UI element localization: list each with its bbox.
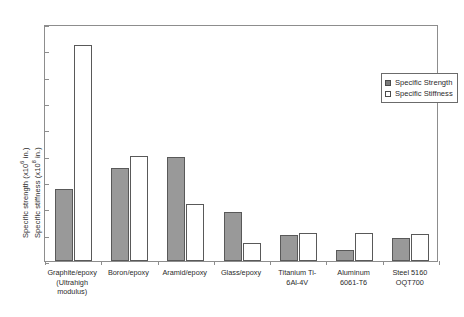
bar-stiffness: [299, 233, 317, 261]
x-axis-tick-mark: [439, 261, 440, 265]
bar-strength: [280, 235, 298, 261]
x-axis-label: Aluminum6061-T6: [325, 268, 381, 287]
x-axis-label: Graphite/epoxy(Ultrahighmodulus): [44, 268, 100, 297]
x-axis-tick-mark: [270, 261, 271, 265]
y-axis-tick-mark: [45, 52, 49, 53]
y-axis-tick-mark: [45, 131, 49, 132]
legend-item: Specific Strength: [385, 77, 453, 88]
y-axis-tick-mark: [45, 184, 49, 185]
y-axis-title-stiffness-exponent: 8: [31, 160, 37, 163]
x-axis-label-line: Titanium Ti-: [269, 268, 325, 278]
y-axis-tick-mark: [45, 26, 49, 27]
chart-legend: Specific StrengthSpecific Stiffness: [381, 73, 458, 103]
x-axis-label-line: Glass/epoxy: [213, 268, 269, 278]
x-axis-label-line: 6Al-4V: [269, 278, 325, 288]
y-axis-tick-mark: [45, 237, 49, 238]
y-axis-tick-mark: [45, 210, 49, 211]
bar-stiffness: [74, 45, 92, 261]
plot-area: 0123456789 Specific StrengthSpecific Sti…: [44, 25, 438, 262]
bar-stiffness: [243, 243, 261, 261]
x-axis-label: Titanium Ti-6Al-4V: [269, 268, 325, 287]
y-axis-title-stiffness-text: Specific stiffness (x10: [33, 163, 42, 238]
x-axis-tick-mark: [383, 261, 384, 265]
x-axis-label: Boron/epoxy: [100, 268, 156, 278]
y-axis-title-strength-text: Specific strength (x10: [21, 164, 30, 238]
x-axis-label: Aramid/epoxy: [157, 268, 213, 278]
bar-strength: [392, 238, 410, 261]
bar-strength: [336, 250, 354, 261]
bar-chart-figure: Specific strength (x106 in.) Specific st…: [0, 0, 464, 317]
y-axis-tick-mark: [45, 79, 49, 80]
bar-strength: [224, 212, 242, 261]
legend-item: Specific Stiffness: [385, 88, 453, 99]
y-axis-title-strength-unit: in.): [21, 147, 30, 160]
x-axis-tick-mark: [326, 261, 327, 265]
x-axis-label-line: OQT700: [382, 278, 438, 288]
x-axis-label-line: Boron/epoxy: [100, 268, 156, 278]
bar-stiffness: [186, 204, 204, 261]
legend-swatch-icon: [385, 80, 391, 86]
bar-strength: [111, 168, 129, 261]
x-axis-tick-mark: [101, 261, 102, 265]
x-axis-label: Glass/epoxy: [213, 268, 269, 278]
y-axis-tick-mark: [45, 158, 49, 159]
y-axis-title-group: Specific strength (x106 in.) Specific st…: [6, 0, 40, 270]
bar-strength: [55, 189, 73, 261]
x-axis-label-line: Graphite/epoxy: [44, 268, 100, 278]
y-axis-tick-mark: [45, 105, 49, 106]
legend-label: Specific Stiffness: [395, 89, 453, 98]
x-axis-label-line: Steel 5160: [382, 268, 438, 278]
y-axis-title-strength-exponent: 6: [19, 161, 25, 164]
bar-strength: [167, 157, 185, 261]
y-axis-title-specific-strength: Specific strength (x106 in.): [19, 147, 30, 238]
legend-swatch-icon: [385, 91, 391, 97]
y-axis-title-stiffness-unit: in.): [33, 147, 42, 160]
x-axis-label-line: 6061-T6: [325, 278, 381, 288]
x-axis-label-line: (Ultrahigh: [44, 278, 100, 288]
x-axis-label-line: modulus): [44, 287, 100, 297]
bar-stiffness: [355, 233, 373, 261]
bar-stiffness: [411, 234, 429, 261]
x-axis-label: Steel 5160OQT700: [382, 268, 438, 287]
x-axis-label-line: Aluminum: [325, 268, 381, 278]
x-axis-tick-mark: [45, 261, 46, 265]
x-axis-tick-mark: [158, 261, 159, 265]
x-axis-tick-mark: [214, 261, 215, 265]
legend-label: Specific Strength: [395, 78, 452, 87]
y-axis-title-specific-stiffness: Specific stiffness (x108 in.): [31, 147, 42, 238]
x-axis-label-line: Aramid/epoxy: [157, 268, 213, 278]
bar-stiffness: [130, 156, 148, 261]
